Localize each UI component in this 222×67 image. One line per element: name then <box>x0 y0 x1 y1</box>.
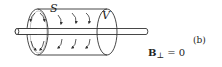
volume-label: V <box>102 10 110 21</box>
surface-label: S <box>50 3 58 14</box>
field-equation-rhs: = 0 <box>167 47 185 58</box>
surface-arrows-bottom <box>58 39 90 48</box>
field-subscript: ⊥ <box>156 51 164 60</box>
field-equation: B⊥ = 0 <box>148 48 185 60</box>
panel-label: (b) <box>193 36 206 45</box>
surface-arrows-top <box>58 13 90 24</box>
cylinder-diagram <box>0 0 222 67</box>
